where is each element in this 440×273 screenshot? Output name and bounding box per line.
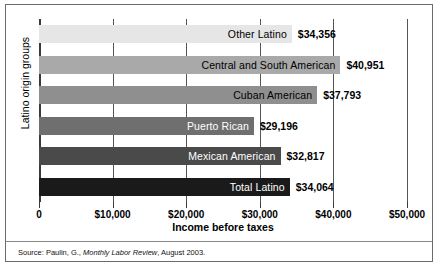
- bar-value-label: $37,793: [317, 86, 361, 104]
- plot-area: 0$10,000$20,000$30,000$40,000$50,000 Oth…: [39, 19, 407, 202]
- bar-value-label: $34,356: [292, 25, 336, 43]
- x-axis-tick: [260, 202, 261, 208]
- bar: Cuban American: [39, 86, 317, 104]
- bar: Other Latino: [39, 25, 292, 43]
- bar-category-label: Central and South American: [201, 59, 335, 71]
- x-axis-tick-label: $40,000: [315, 209, 351, 220]
- x-axis-tick-label: 0: [36, 209, 42, 220]
- x-axis-tick-label: $50,000: [389, 209, 425, 220]
- bar-value-label: $29,196: [254, 117, 298, 135]
- gridline: [407, 19, 408, 202]
- bar: Central and South American: [39, 56, 340, 74]
- gridline: [113, 19, 114, 202]
- x-axis-tick-label: $10,000: [95, 209, 131, 220]
- gridline: [260, 19, 261, 202]
- bar-row: Central and South American$40,951: [39, 56, 407, 74]
- source-divider: [6, 241, 432, 242]
- chart-figure: 0$10,000$20,000$30,000$40,000$50,000 Oth…: [5, 4, 433, 262]
- bar-value-label: $40,951: [340, 56, 384, 74]
- x-axis-tick: [113, 202, 114, 208]
- bar: Total Latino: [39, 178, 290, 196]
- x-axis-tick: [407, 202, 408, 208]
- y-axis-line: [39, 19, 41, 202]
- bar-row: Puerto Rican$29,196: [39, 117, 407, 135]
- source-publication: Monthly Labor Review: [81, 248, 157, 257]
- x-axis-tick: [333, 202, 334, 208]
- bar-value-label: $34,064: [290, 178, 334, 196]
- bar-category-label: Total Latino: [230, 181, 285, 193]
- x-axis-tick-label: $30,000: [242, 209, 278, 220]
- bar: Puerto Rican: [39, 117, 254, 135]
- source-suffix: , August 2003.: [157, 248, 205, 257]
- bar: Mexican American: [39, 147, 281, 165]
- bar-category-label: Mexican American: [188, 150, 275, 162]
- x-axis-tick-label: $20,000: [168, 209, 204, 220]
- bar-row: Mexican American$32,817: [39, 147, 407, 165]
- x-axis-tick: [186, 202, 187, 208]
- y-axis-title: Latino origin groups: [19, 18, 31, 148]
- source-prefix: Source: Paulin, G.,: [18, 248, 81, 257]
- gridline: [186, 19, 187, 202]
- bar-category-label: Cuban American: [233, 89, 312, 101]
- bar-row: Total Latino$34,064: [39, 178, 407, 196]
- bar-value-label: $32,817: [281, 147, 325, 165]
- bar-row: Other Latino$34,356: [39, 25, 407, 43]
- x-axis-title: Income before taxes: [39, 221, 407, 233]
- x-axis-tick: [39, 202, 40, 208]
- bar-row: Cuban American$37,793: [39, 86, 407, 104]
- gridline: [333, 19, 334, 202]
- bar-category-label: Other Latino: [228, 28, 287, 40]
- bar-category-label: Puerto Rican: [187, 120, 249, 132]
- source-note: Source: Paulin, G., Monthly Labor Review…: [18, 248, 205, 257]
